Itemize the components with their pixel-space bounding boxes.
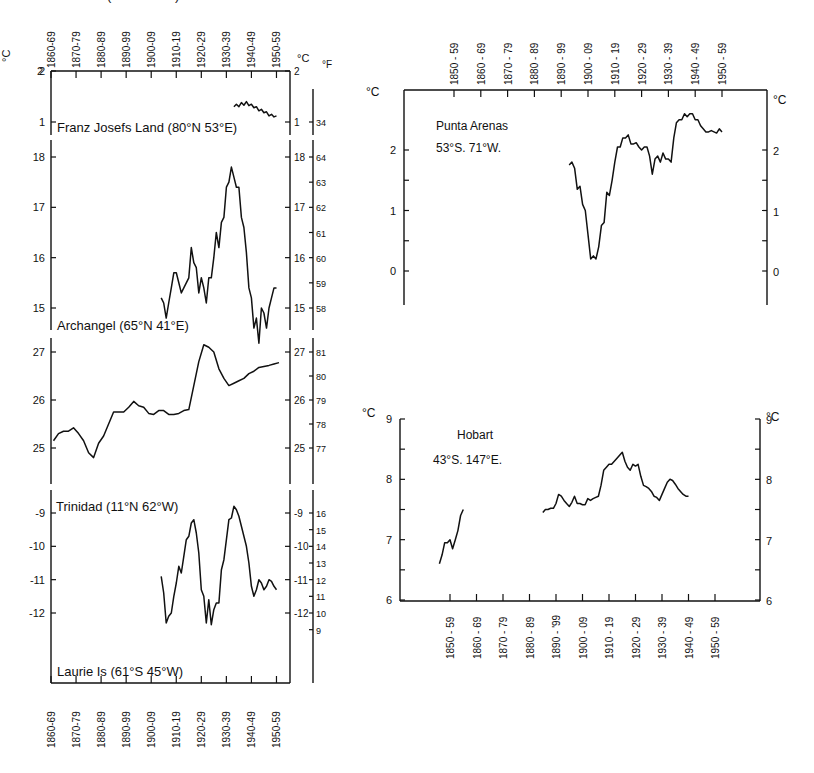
- data-line: [569, 114, 722, 259]
- chart-panel-punta_arenas: 1850 - 591860 - 691870 - 791880 - 891890…: [366, 42, 787, 305]
- chart-panel-archangel: 151516161717181858596061626364Archangel …: [33, 140, 326, 343]
- station-label: Punta Arenas: [436, 119, 508, 133]
- x-tick-label: 1950 - 59: [710, 616, 721, 659]
- x-tick-label: 1870-79: [71, 711, 82, 748]
- f-tick-label: 13: [316, 559, 326, 569]
- chart-panel-hobart: 1850 - 591860 - 691870 - 791880 - 891890…: [362, 406, 780, 659]
- f-tick-label: 63: [316, 178, 326, 188]
- x-tick-label: 1880-89: [96, 711, 107, 748]
- chart-panel-laurie_is: -12-12-11-11-10-10-9-9910111213141516Lau…: [29, 490, 326, 683]
- x-tick-label: 1910 - 19: [604, 616, 615, 659]
- data-line: [234, 102, 277, 117]
- unit-label-c: °C: [0, 50, 12, 62]
- x-tick-label: 1930 - 39: [657, 616, 668, 659]
- y-tick-label-right: 7: [766, 535, 772, 547]
- y-tick-label-right: 26: [294, 395, 306, 406]
- x-tick-label: 1860 - 69: [472, 616, 483, 659]
- f-tick-label: 14: [316, 542, 326, 552]
- y-tick-label: 2: [390, 144, 396, 156]
- chart-panel-trinidad: 2525262627277778798081Trinidad (11°N 62°…: [33, 0, 326, 484]
- x-tick-label: 1910-19: [171, 31, 182, 68]
- x-tick-label: 1940-49: [246, 31, 257, 68]
- y-tick-label: 17: [33, 201, 45, 213]
- x-tick-label: 1870 - 79: [503, 42, 514, 85]
- station-label: Archangel (65°N 41°E): [57, 318, 189, 333]
- unit-label-c-right: °C: [766, 410, 780, 424]
- y-tick-label-right: 27: [294, 347, 306, 358]
- x-tick-label: 1920-29: [196, 711, 207, 748]
- f-tick-label: 79: [316, 396, 326, 406]
- f-tick-label: 10: [316, 609, 326, 619]
- x-tick-label: 1930-39: [221, 711, 232, 748]
- y-tick-label-right: -12: [294, 608, 309, 619]
- right-column-panels: 1850 - 591860 - 691870 - 791880 - 891890…: [362, 42, 787, 659]
- left-column-panels: 112234Franz Josefs Land (80°N 53°E)1860-…: [0, 0, 332, 748]
- y-tick-label: 1: [39, 116, 45, 128]
- x-tick-label: 1860 - 69: [476, 42, 487, 85]
- x-tick-label: 1900 - 09: [583, 42, 594, 85]
- data-line: [54, 345, 280, 458]
- x-tick-label: 1860-69: [46, 31, 57, 68]
- x-tick-label: 1910 - 19: [610, 42, 621, 85]
- y-tick-label: -12: [29, 607, 45, 619]
- unit-label-c: °C: [362, 406, 376, 420]
- f-tick-label: 58: [316, 304, 326, 314]
- data-line: [543, 452, 689, 512]
- climate-figure: 112234Franz Josefs Land (80°N 53°E)1860-…: [0, 0, 814, 773]
- y-tick-label-right: -9: [294, 508, 303, 519]
- y-tick-label: 7: [386, 534, 392, 546]
- y-tick-label-right: 15: [294, 303, 306, 314]
- x-tick-label: 1940-49: [246, 711, 257, 748]
- y-tick-label-right: -10: [294, 541, 309, 552]
- y-tick-label: 1: [390, 205, 396, 217]
- y-tick-label: 0: [390, 265, 396, 277]
- y-tick-label-right: 17: [294, 202, 306, 213]
- x-tick-label: 1900-09: [146, 711, 157, 748]
- f-tick-label: 61: [316, 229, 326, 239]
- f-tick-label: 77: [316, 444, 326, 454]
- unit-label-c: °C: [366, 85, 380, 99]
- unit-label-f: °F: [322, 59, 332, 70]
- x-tick-label: 1860-69: [46, 711, 57, 748]
- y-tick-label: -9: [35, 507, 45, 519]
- y-tick-label-right: -11: [294, 575, 308, 586]
- x-tick-label: 1900-09: [146, 31, 157, 68]
- y-tick-label: 16: [33, 252, 45, 264]
- station-label: Franz Josefs Land (80°N 53°E): [57, 120, 237, 135]
- x-tick-label: 1890-99: [121, 711, 132, 748]
- f-tick-label: 12: [316, 576, 326, 586]
- unit-label-c-right: °C: [297, 52, 309, 64]
- y-tick-label-right: 0: [773, 266, 779, 278]
- x-tick-label: 1920 - 29: [637, 42, 648, 85]
- x-tick-label: 1890 - 99: [556, 42, 567, 85]
- x-tick-label: 1940 - 49: [684, 616, 695, 659]
- y-tick-label: 9: [386, 413, 392, 425]
- x-tick-label: 1880 - 89: [529, 42, 540, 85]
- f-tick-label: 78: [316, 420, 326, 430]
- y-tick-label: 15: [33, 302, 45, 314]
- x-tick-label: 1950 - 59: [717, 42, 728, 85]
- f-tick-label: 15: [316, 526, 326, 536]
- f-tick-label: 64: [316, 153, 326, 163]
- y-tick-label-right: 1: [294, 117, 300, 128]
- unit-label-c-right: °C: [773, 93, 787, 107]
- f-tick-label: 60: [316, 254, 326, 264]
- y-tick-label: -11: [30, 574, 45, 586]
- station-coords: 43°S. 147°E.: [433, 453, 502, 467]
- f-tick-label: 59: [316, 279, 326, 289]
- y-tick-label: 2: [37, 65, 43, 77]
- x-tick-label: 1880 - 89: [525, 616, 536, 659]
- x-tick-label: 1850 - 59: [445, 616, 456, 659]
- y-tick-label-right: 2: [294, 66, 300, 77]
- y-tick-label-right: 18: [294, 152, 306, 163]
- f-tick-label: 80: [316, 372, 326, 382]
- x-tick-label: 1900 - 09: [578, 616, 589, 659]
- station-label: Trinidad (11°N 62°W): [57, 0, 179, 3]
- x-tick-label: 1890-99: [121, 31, 132, 68]
- x-tick-label: 1950-59: [271, 31, 282, 68]
- trinidad-label-group: Trinidad (11°N 62°W)1860-691870-791880-8…: [46, 499, 290, 748]
- station-label: Hobart: [457, 428, 494, 442]
- y-tick-label-right: 1: [773, 206, 779, 218]
- x-tick-label: 1920-29: [196, 31, 207, 68]
- x-tick-label: 1920 - 29: [631, 616, 642, 659]
